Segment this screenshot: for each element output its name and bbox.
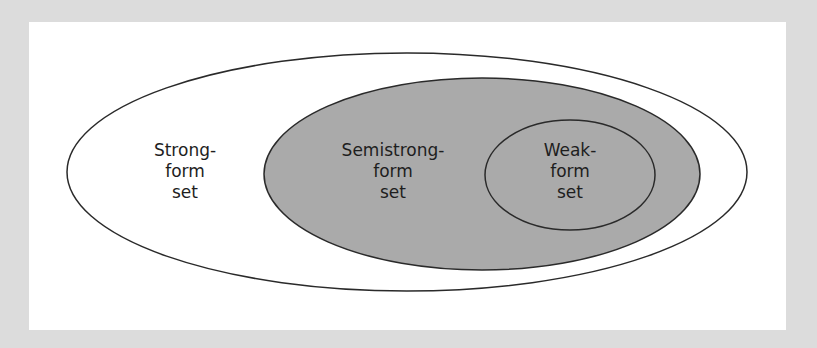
label-line: form — [530, 161, 610, 182]
strong-form-set-label: Strong- form set — [130, 140, 240, 203]
weak-form-set-label: Weak- form set — [530, 140, 610, 203]
label-line: form — [130, 161, 240, 182]
label-line: set — [318, 182, 468, 203]
label-line: Semistrong- — [318, 140, 468, 161]
label-line: Weak- — [530, 140, 610, 161]
label-line: Strong- — [130, 140, 240, 161]
label-line: set — [130, 182, 240, 203]
label-line: set — [530, 182, 610, 203]
label-line: form — [318, 161, 468, 182]
semistrong-form-set-label: Semistrong- form set — [318, 140, 468, 203]
